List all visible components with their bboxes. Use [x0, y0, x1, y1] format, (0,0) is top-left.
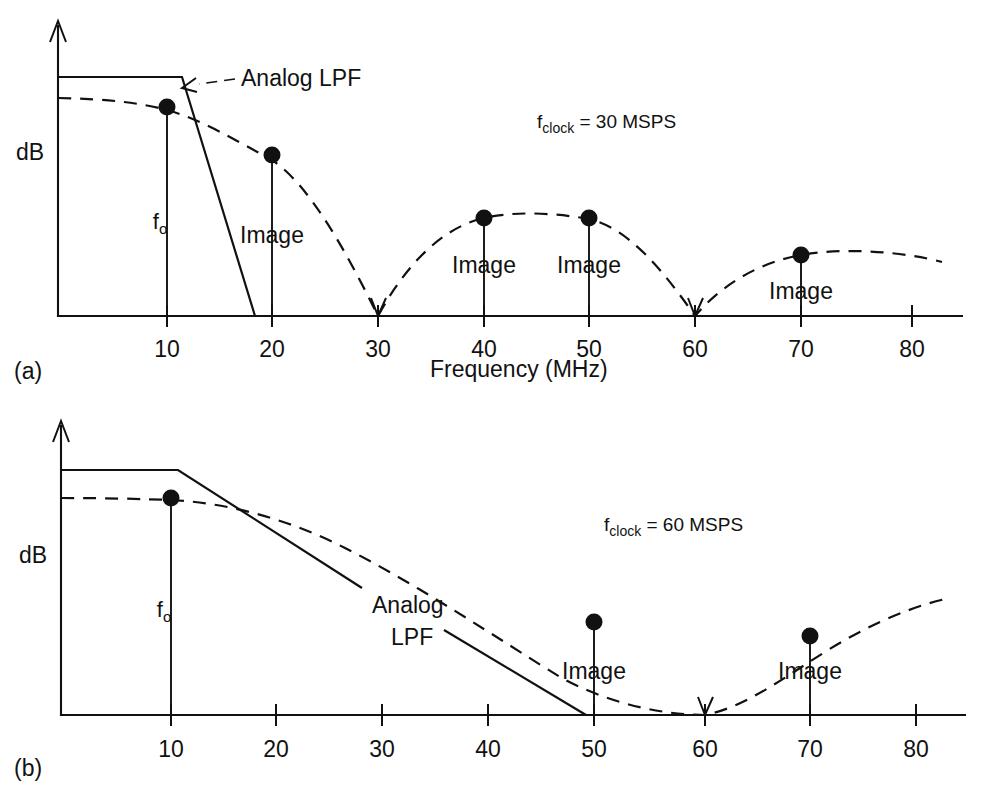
panel-b-fclock-value: = 60 MSPS [641, 514, 743, 535]
panel-a-marker-image-20 [264, 147, 281, 164]
panel-a-fo-subscript: o [159, 220, 167, 237]
panel-a-marker-image-40 [476, 210, 493, 227]
panel-b-ticklabel-70: 70 [797, 736, 823, 762]
figure-container: 10 20 30 40 50 60 70 80 dB Frequency (MH… [0, 0, 991, 789]
panel-a-ticklabel-10: 10 [154, 336, 180, 362]
panel-a-ticklabel-70: 70 [788, 336, 814, 362]
panel-b-ticklabel-10: 10 [158, 736, 184, 762]
panel-b-image-label-70: Image [778, 658, 842, 684]
panel-a-ticklabel-80: 80 [899, 336, 925, 362]
panel-a: 10 20 30 40 50 60 70 80 dB Frequency (MH… [14, 21, 962, 384]
panel-b-fclock-subscript: clock [609, 523, 642, 539]
panel-b-ticklabel-50: 50 [581, 736, 607, 762]
panel-a-image-label-20: Image [240, 222, 304, 248]
figure-svg: 10 20 30 40 50 60 70 80 dB Frequency (MH… [0, 0, 991, 789]
panel-a-fclock-value: = 30 MSPS [574, 111, 676, 132]
panel-b-ticklabel-20: 20 [263, 736, 289, 762]
panel-a-analog-lpf-curve [58, 77, 255, 316]
panel-b-fo-subscript: o [163, 608, 171, 625]
panel-a-marker-image-70 [793, 247, 810, 264]
panel-a-marker-fo [159, 99, 176, 116]
panel-a-analog-lpf-label: Analog LPF [241, 65, 361, 91]
panel-b: 10 20 30 40 50 60 70 80 dB (b) Analog LP… [14, 421, 965, 781]
panel-b-fclock-note: fclock = 60 MSPS [604, 514, 743, 539]
panel-b-analog-lpf-curve-upper [61, 470, 362, 588]
panel-a-marker-image-50 [581, 210, 598, 227]
panel-b-fo-label: fo [157, 597, 171, 625]
panel-a-fclock-note: fclock = 30 MSPS [537, 111, 676, 136]
panel-b-marker-image-70 [802, 628, 819, 645]
panel-a-ticklabel-60: 60 [682, 336, 708, 362]
panel-a-fo-label: fo [153, 209, 167, 237]
panel-b-ticklabel-40: 40 [475, 736, 501, 762]
panel-a-label: (a) [14, 358, 42, 384]
panel-b-analog-lpf-label-line1: Analog [372, 592, 444, 618]
panel-b-marker-fo [163, 490, 180, 507]
panel-a-ticklabel-30: 30 [365, 336, 391, 362]
panel-a-image-label-40: Image [452, 252, 516, 278]
panel-a-lpf-leader-line [199, 79, 235, 84]
panel-a-fclock-subscript: clock [542, 120, 575, 136]
panel-b-marker-image-50 [586, 614, 603, 631]
panel-b-image-label-50: Image [562, 658, 626, 684]
panel-b-ticklabel-80: 80 [903, 736, 929, 762]
panel-a-x-axis-title: Frequency (MHz) [430, 356, 608, 382]
panel-b-ticklabel-30: 30 [369, 736, 395, 762]
panel-a-y-axis-label: dB [16, 139, 44, 165]
panel-b-analog-lpf-label-line2: LPF [391, 624, 433, 650]
panel-b-ticklabel-60: 60 [692, 736, 718, 762]
panel-a-image-label-50: Image [557, 252, 621, 278]
panel-b-y-axis-label: dB [19, 542, 47, 568]
panel-b-label: (b) [14, 755, 42, 781]
panel-a-image-label-70: Image [769, 278, 833, 304]
panel-a-ticklabel-20: 20 [259, 336, 285, 362]
